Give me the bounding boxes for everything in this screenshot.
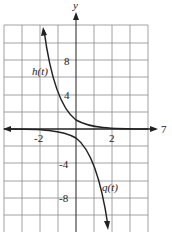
y-axis-label: y: [72, 0, 78, 11]
y-axis: [73, 12, 79, 232]
y-tick-4: 4: [64, 89, 70, 101]
y-tick-8: 8: [64, 55, 70, 67]
y-axis-arrow-icon: [73, 12, 79, 20]
h-curve: [44, 30, 148, 129]
y-tick-neg8: -8: [59, 192, 69, 204]
x-axis-label: 7: [161, 123, 167, 135]
x-axis-right-arrow-icon: [150, 126, 158, 132]
h-curve-label: h(t): [32, 65, 48, 78]
x-tick-neg2: -2: [34, 132, 43, 144]
chart-canvas: y 7 -2 2 8 4 -4 -8 h(t) q(t): [0, 0, 172, 232]
h-curve-arrow-icon: [41, 27, 47, 36]
y-tick-neg4: -4: [59, 158, 69, 170]
q-curve-label: q(t): [102, 181, 118, 194]
q-curve-arrow-icon: [104, 221, 110, 230]
q-curve: [4, 129, 108, 226]
x-tick-2: 2: [109, 132, 115, 144]
